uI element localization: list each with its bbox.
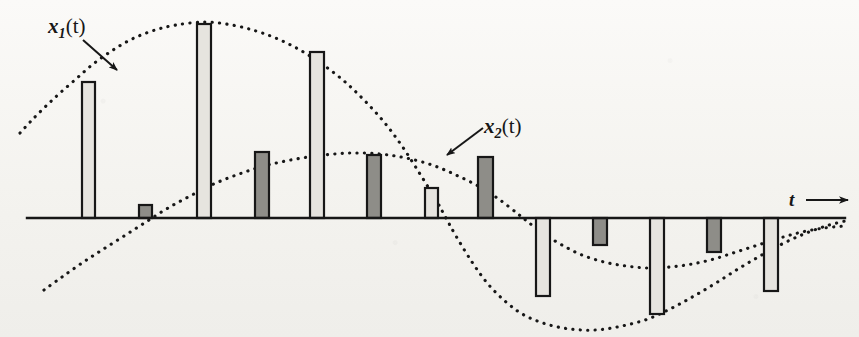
figure-canvas: x1(t) x2(t) t xyxy=(0,0,859,337)
sample-bar-rect xyxy=(255,152,269,218)
sample-bar-rect xyxy=(478,157,493,218)
sample-bar-rect xyxy=(536,218,550,296)
sample-bar xyxy=(593,218,607,245)
waveform-svg xyxy=(0,0,859,337)
sample-bar-rect xyxy=(367,155,381,218)
sample-bar-rect xyxy=(82,82,95,218)
sample-bar xyxy=(197,24,211,218)
sample-pulse-bars xyxy=(82,24,778,314)
sample-bar xyxy=(707,218,721,252)
x2-pointer xyxy=(447,128,483,155)
sample-bar xyxy=(255,152,269,218)
sample-bar-rect xyxy=(310,52,324,218)
signal2-label-sub: 2 xyxy=(495,125,502,141)
sample-bar-rect xyxy=(593,218,607,245)
time-axis-label: t xyxy=(789,190,794,209)
sample-bar-rect xyxy=(650,218,664,314)
signal1-label: x1(t) xyxy=(48,16,85,40)
sample-bar xyxy=(764,218,778,291)
sample-bar xyxy=(139,205,152,218)
sample-bar xyxy=(536,218,550,296)
sample-bar xyxy=(478,157,493,218)
sample-bar xyxy=(310,52,324,218)
sample-bar xyxy=(650,218,664,314)
sample-bar-rect xyxy=(197,24,211,218)
signal2-label-base: x xyxy=(484,114,495,138)
signal2-label: x2(t) xyxy=(484,116,521,140)
signal-curve-1 xyxy=(20,22,845,330)
signal1-label-arg: (t) xyxy=(66,14,86,38)
signal-curve-2 xyxy=(44,153,845,290)
signal2-label-arg: (t) xyxy=(502,114,522,138)
signal1-label-base: x xyxy=(48,14,59,38)
sample-bar-rect xyxy=(425,188,438,218)
signal1-label-sub: 1 xyxy=(59,25,66,41)
x1-pointer xyxy=(83,40,117,70)
sample-bar xyxy=(425,188,438,218)
sample-bar-rect xyxy=(139,205,152,218)
sample-bar xyxy=(367,155,381,218)
sample-bar-rect xyxy=(764,218,778,291)
sample-bar-rect xyxy=(707,218,721,252)
signal-curves xyxy=(20,22,845,330)
sample-bar xyxy=(82,82,95,218)
